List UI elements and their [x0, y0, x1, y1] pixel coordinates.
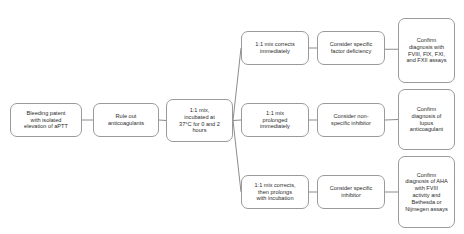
edge-rule-out-to-mixing-study [159, 120, 166, 121]
edge-mixing-study-to-corrects-immediately [233, 48, 241, 121]
node-label-confirm-lupus-anticoagulant: Confirm diagnosis of lupus anticoagulant [406, 106, 447, 133]
node-label-corrects-immediately: 1:1 mix corrects immediately [251, 41, 298, 55]
node-prolonged-immediately: 1:1 mix prolonged immediately [241, 103, 309, 137]
node-corrects-immediately: 1:1 mix corrects immediately [241, 31, 309, 65]
node-label-presentation: Bleeding patent with isolated elevation … [20, 110, 72, 130]
node-confirm-factor-assays: Confirm diagnosis with FVIII, FIX, FXI, … [398, 18, 455, 83]
node-presentation: Bleeding patent with isolated elevation … [10, 103, 82, 137]
flowchart-canvas: Bleeding patent with isolated elevation … [0, 0, 464, 234]
node-confirm-lupus-anticoagulant: Confirm diagnosis of lupus anticoagulant [398, 89, 455, 150]
node-specific-inhibitor: Consider specific inhibitor [317, 175, 385, 209]
node-label-confirm-aha: Confirm diagnosis of AHA with FVIII acti… [401, 172, 452, 213]
node-label-mixing-study: 1:1 mix, incubated at 37°C for 0 and 2 h… [175, 107, 224, 134]
edge-non-specific-inhibitor-to-confirm-lupus [385, 120, 398, 121]
node-mixing-study: 1:1 mix, incubated at 37°C for 0 and 2 h… [166, 99, 233, 142]
node-non-specific-inhibitor: Consider non- specific inhibitor [317, 103, 385, 137]
node-rule-out-anticoagulants: Rule out anticoagulants [93, 103, 159, 137]
node-confirm-aha: Confirm diagnosis of AHA with FVIII acti… [398, 156, 455, 228]
node-label-rule-out-anticoagulants: Rule out anticoagulants [104, 113, 148, 127]
node-label-confirm-factor-assays: Confirm diagnosis with FVIII, FIX, FXI, … [402, 37, 450, 64]
node-corrects-then-prolongs: 1:1 mix corrects, then prolongs with inc… [241, 175, 309, 209]
node-label-prolonged-immediately: 1:1 mix prolonged immediately [256, 110, 294, 130]
node-label-factor-deficiency: Consider specific factor deficiency [326, 41, 377, 55]
node-label-non-specific-inhibitor: Consider non- specific inhibitor [327, 113, 375, 127]
node-factor-deficiency: Consider specific factor deficiency [317, 31, 385, 65]
node-label-specific-inhibitor: Consider specific inhibitor [326, 185, 377, 199]
edge-mixing-study-to-corrects-then-prolongs [233, 121, 241, 193]
edge-mixing-study-to-prolonged-immediately [233, 120, 241, 121]
node-label-corrects-then-prolongs: 1:1 mix corrects, then prolongs with inc… [250, 182, 299, 202]
